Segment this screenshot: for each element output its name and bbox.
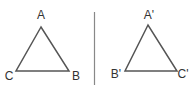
- vertex-label-a: A: [37, 8, 45, 22]
- vertex-label-b: B: [72, 69, 80, 83]
- triangle-abc: [16, 27, 69, 71]
- triangle-a-prime-b-prime-c-prime: [125, 25, 177, 71]
- vertex-label-c: C: [5, 69, 14, 83]
- vertex-label-b-prime: B': [111, 67, 121, 81]
- vertex-label-c-prime: C': [178, 67, 189, 81]
- triangle-reflection-diagram: A C B A' B' C': [0, 0, 191, 98]
- right-triangle: A' B' C': [111, 8, 189, 81]
- left-triangle: A C B: [5, 8, 80, 83]
- vertex-label-a-prime: A': [144, 8, 154, 22]
